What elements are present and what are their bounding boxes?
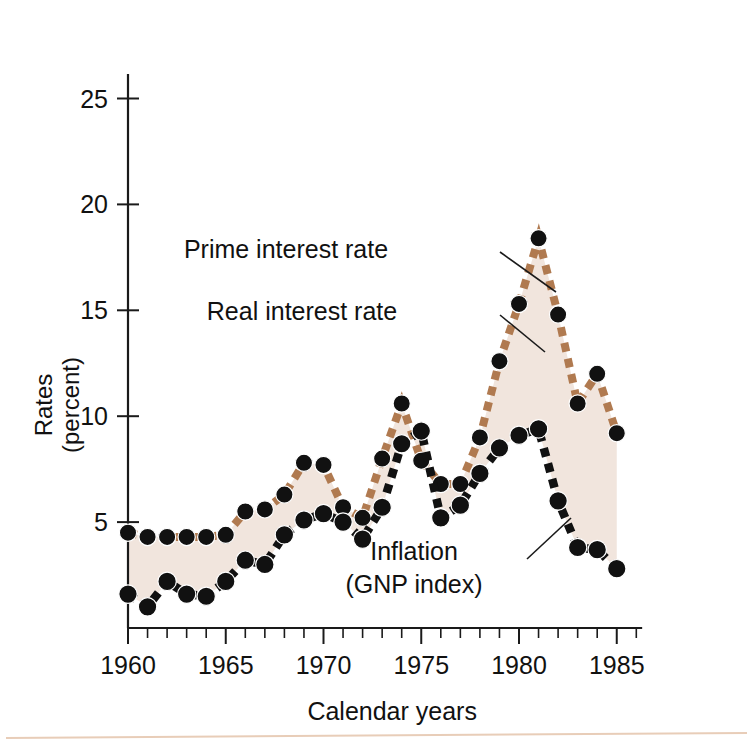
data-point-inflation-1966: [236, 551, 254, 569]
y-tick-label-25: 25: [80, 85, 108, 113]
y-tick-label-5: 5: [94, 508, 108, 536]
data-point-prime-1968: [276, 486, 293, 503]
inflation-annotation-label-line2: (GNP index): [345, 570, 482, 598]
data-point-prime-1966: [237, 503, 254, 520]
data-point-inflation-1975: [412, 422, 430, 440]
real-interest-rate-annotation-label: Real interest rate: [207, 297, 397, 325]
data-point-inflation-1970: [314, 504, 332, 522]
data-point-prime-1984: [589, 365, 606, 382]
x-tick-label-1985: 1985: [589, 651, 645, 679]
x-tick-label-1965: 1965: [198, 651, 254, 679]
data-point-prime-1974: [393, 395, 410, 412]
data-point-inflation-1979: [490, 439, 508, 457]
data-point-prime-1965: [217, 526, 234, 543]
data-point-inflation-1984: [588, 540, 606, 558]
data-point-inflation-1977: [451, 496, 469, 514]
data-point-prime-1982: [550, 306, 567, 323]
y-axis-title: Rates(percent): [30, 357, 84, 453]
y-axis-title-line1: Rates: [30, 374, 57, 437]
inflation-annotation-leader-line: [527, 518, 571, 559]
data-point-inflation-1978: [471, 464, 489, 482]
data-point-prime-1969: [295, 454, 312, 471]
data-point-inflation-1968: [275, 526, 293, 544]
data-point-inflation-1974: [393, 435, 411, 453]
y-tick-label-15: 15: [80, 296, 108, 324]
data-point-inflation-1961: [138, 598, 156, 616]
inflation-annotation-label-line1: Inflation: [370, 537, 458, 565]
data-point-prime-1973: [374, 450, 391, 467]
data-point-inflation-1981: [529, 420, 547, 438]
interest-rate-chart: 510152025196019651970197519801985Calenda…: [0, 0, 753, 745]
data-point-inflation-1969: [295, 511, 313, 529]
data-point-inflation-1985: [608, 559, 626, 577]
x-axis-title: Calendar years: [307, 697, 477, 725]
prime-interest-rate-annotation-label: Prime interest rate: [184, 235, 388, 263]
data-point-prime-1964: [198, 528, 215, 545]
data-point-inflation-1963: [177, 585, 195, 603]
data-point-inflation-1967: [256, 555, 274, 573]
data-point-prime-1980: [510, 295, 527, 312]
data-point-prime-1978: [471, 429, 488, 446]
chart-figure: 510152025196019651970197519801985Calenda…: [0, 0, 753, 745]
data-point-prime-1961: [139, 528, 156, 545]
x-tick-label-1980: 1980: [491, 651, 547, 679]
y-axis-title-line2: (percent): [57, 357, 84, 453]
footer-rule: [6, 733, 747, 738]
data-point-inflation-1960: [119, 585, 137, 603]
data-point-prime-1985: [608, 425, 625, 442]
data-point-prime-1981: [530, 230, 547, 247]
data-point-prime-1979: [491, 353, 508, 370]
y-tick-label-20: 20: [80, 190, 108, 218]
data-point-prime-1983: [569, 395, 586, 412]
data-point-inflation-1982: [549, 492, 567, 510]
data-point-inflation-1973: [373, 498, 391, 516]
data-point-prime-1962: [159, 528, 176, 545]
data-point-prime-1963: [178, 528, 195, 545]
data-point-prime-1967: [256, 501, 273, 518]
data-point-inflation-1972: [353, 530, 371, 548]
data-point-prime-1972: [354, 509, 371, 526]
y-tick-label-10: 10: [80, 402, 108, 430]
x-tick-label-1975: 1975: [393, 651, 449, 679]
data-point-prime-1970: [315, 456, 332, 473]
data-point-inflation-1976: [432, 509, 450, 527]
data-point-inflation-1962: [158, 572, 176, 590]
data-point-prime-1977: [452, 475, 469, 492]
data-point-prime-1960: [119, 524, 136, 541]
data-point-inflation-1971: [334, 513, 352, 531]
data-point-inflation-1965: [217, 572, 235, 590]
data-point-inflation-1983: [568, 538, 586, 556]
data-point-inflation-1980: [510, 426, 528, 444]
data-point-inflation-1964: [197, 587, 215, 605]
x-tick-label-1960: 1960: [100, 651, 156, 679]
x-tick-label-1970: 1970: [296, 651, 352, 679]
